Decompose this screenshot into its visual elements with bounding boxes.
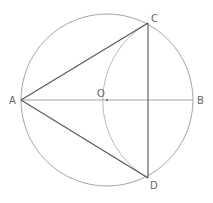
label-a: A xyxy=(9,95,16,106)
center-point-o xyxy=(106,99,108,101)
label-o: O xyxy=(97,88,105,99)
segment-ad xyxy=(21,100,148,178)
label-b: B xyxy=(197,95,204,106)
segment-ac xyxy=(21,23,148,100)
label-c: C xyxy=(151,13,158,24)
geometry-diagram: A B C D O xyxy=(0,0,213,203)
label-d: D xyxy=(150,180,158,191)
